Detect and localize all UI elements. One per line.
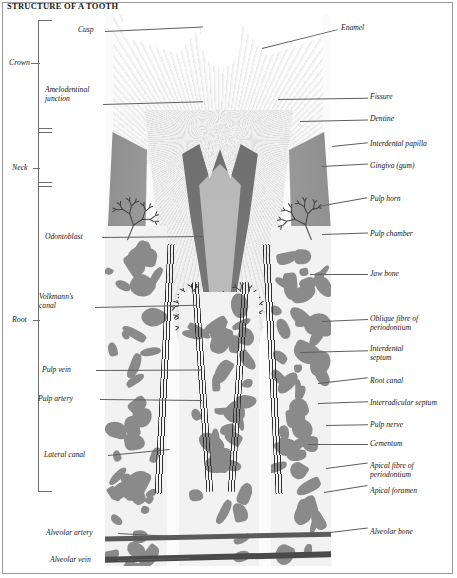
label-interradicular-septum: Interradicular septum <box>370 399 437 408</box>
label-fissure: Fissure <box>370 93 393 102</box>
bone-trabecula <box>295 385 306 401</box>
bracket-label-root: Root <box>12 315 27 324</box>
bone-trabecula <box>314 275 331 300</box>
bone-trabecula <box>139 346 161 358</box>
label-alveolar-bone: Alveolar bone <box>370 528 413 537</box>
leader-line-jaw-bone <box>310 274 368 275</box>
label-dentine: Dentine <box>370 115 394 124</box>
bone-trabecula <box>105 266 114 276</box>
tooth-diagram-image <box>105 14 331 566</box>
bracket-pointer-crown <box>31 63 40 64</box>
interradicular-septum-region <box>179 292 259 566</box>
bracket-tick-crown-neck <box>38 128 52 129</box>
bone-trabecula <box>242 378 253 388</box>
region-bracket <box>38 20 39 492</box>
label-canal: canal <box>39 302 56 311</box>
bone-trabecula <box>287 449 308 463</box>
page-title: STRUCTURE OF A TOOTH <box>7 1 118 11</box>
bracket-tick-neck-root <box>38 182 52 183</box>
bone-trabecula <box>299 267 310 277</box>
label-lateral-canal: Lateral canal <box>44 451 85 460</box>
label-cusp: Cusp <box>78 26 94 35</box>
bone-trabecula <box>285 407 306 428</box>
bone-trabecula <box>294 364 303 373</box>
bracket-label-crown: Crown <box>9 58 30 67</box>
bracket-label-neck: Neck <box>12 163 28 172</box>
label-apical-foramen: Apical foramen <box>370 487 417 496</box>
bone-trabecula <box>287 460 310 482</box>
label-pulp-chamber: Pulp chamber <box>370 230 413 239</box>
bone-trabecula <box>122 431 145 452</box>
bracket-pointer-neck <box>33 168 40 169</box>
label-pulp-horn: Pulp horn <box>370 195 401 204</box>
label-junction: junction <box>45 95 70 104</box>
bone-trabecula <box>111 449 123 463</box>
bracket-tick-top <box>38 20 52 21</box>
bone-trabecula <box>109 513 124 527</box>
label-pulp-artery: Pulp artery <box>38 395 73 404</box>
bone-trabecula <box>275 317 292 341</box>
alveolar-bone-right-region <box>271 226 331 566</box>
label-septum: septum <box>370 354 392 363</box>
bone-trabecula <box>140 505 150 515</box>
bracket-tick-crown-neck-2 <box>38 132 52 133</box>
label-alveolar-artery: Alveolar artery <box>46 529 93 538</box>
label-alveolar-vein: Alveolar vein <box>50 556 91 565</box>
label-interdental-papilla: Interdental papilla <box>370 140 427 149</box>
bracket-tick-neck-root-2 <box>38 186 52 187</box>
label-gingiva-gum: Gingiva (gum) <box>370 162 415 171</box>
label-odontoblast: Odontoblast <box>45 233 83 242</box>
bracket-pointer-root <box>33 320 40 321</box>
figure-page: STRUCTURE OF A TOOTH <box>0 0 457 578</box>
label-pulp-nerve: Pulp nerve <box>370 421 403 430</box>
bracket-tick-bottom <box>38 491 52 492</box>
bone-trabecula <box>188 489 204 503</box>
bone-trabecula <box>295 320 303 327</box>
label-cementum: Cementum <box>370 440 402 449</box>
label-periodontium: periodontium <box>370 471 411 480</box>
bone-trabecula <box>234 481 255 506</box>
label-root-canal: Root canal <box>370 377 403 386</box>
label-jaw-bone: Jaw bone <box>370 270 399 279</box>
bone-trabecula <box>215 499 235 526</box>
bone-trabecula <box>276 250 299 266</box>
label-pulp-vein: Pulp vein <box>42 366 71 375</box>
bone-trabecula <box>106 341 118 357</box>
label-periodontium: periodontium <box>370 324 411 333</box>
leader-line-cementum <box>308 444 368 445</box>
label-enamel: Enamel <box>341 24 364 33</box>
alveolar-bone-left-region <box>105 226 167 566</box>
